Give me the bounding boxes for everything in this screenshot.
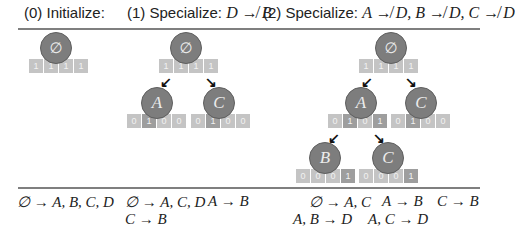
- bit: 0: [328, 114, 342, 128]
- step1-rule-3: C → B: [125, 211, 167, 228]
- step2-rule-3: C → B: [437, 193, 479, 210]
- step0-header: (0) Initialize:: [24, 4, 105, 21]
- bit: 0: [436, 114, 450, 128]
- step2-header: (2) Specialize: A ↛ D, B ↛ D, C ↛ D: [263, 4, 515, 22]
- step2-root-node: ∅: [375, 32, 407, 64]
- step2-rule-1: ∅ → A, C: [309, 193, 371, 211]
- step1-node-a: A: [141, 87, 173, 119]
- bit: 1: [29, 59, 43, 73]
- step2-node-a: A: [345, 87, 377, 119]
- bit: 1: [404, 169, 418, 183]
- step2-rule-5: A, C → D: [368, 211, 428, 228]
- bit: 1: [204, 59, 218, 73]
- step1-node-c: C: [203, 87, 235, 119]
- step0-title: (0) Initialize:: [24, 4, 105, 21]
- bit: 1: [373, 114, 387, 128]
- step1-rule-2: A → B: [208, 193, 249, 210]
- bit: 0: [236, 114, 250, 128]
- bit: 0: [296, 169, 310, 183]
- bit: 0: [359, 169, 373, 183]
- bit: 1: [404, 59, 418, 73]
- bit: 1: [159, 59, 173, 73]
- step2-node-c: C: [405, 87, 437, 119]
- step1-root-node: ∅: [170, 32, 202, 64]
- bit: 0: [127, 114, 141, 128]
- bit: 1: [341, 169, 355, 183]
- step2-rule: A ↛ D, B ↛ D, C ↛ D: [362, 4, 515, 21]
- step1-header: (1) Specialize: D ↛ B: [127, 4, 272, 22]
- step0-root-node: ∅: [40, 32, 72, 64]
- bit: 0: [191, 114, 205, 128]
- bit: 1: [74, 59, 88, 73]
- bottom-divider: [18, 187, 480, 189]
- step1-rule-1: ∅ → A, C, D: [125, 193, 205, 211]
- step2-node-b: B: [309, 142, 341, 174]
- step2-rule-2: A → B: [382, 193, 423, 210]
- step2-rule-4: A, B → D: [293, 211, 352, 228]
- step1-title: (1) Specialize:: [127, 4, 226, 21]
- step0-rule-1: ∅ → A, B, C, D: [17, 193, 114, 211]
- step2-node-c-child: C: [372, 142, 404, 174]
- bit: 0: [172, 114, 186, 128]
- bit: 1: [359, 59, 373, 73]
- step2-title: (2) Specialize:: [263, 4, 362, 21]
- top-divider: [18, 28, 480, 30]
- bit: 0: [391, 114, 405, 128]
